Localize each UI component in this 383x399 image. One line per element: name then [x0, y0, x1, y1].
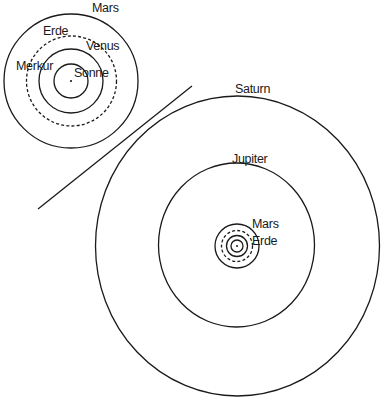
- label-mars-outer: Mars: [252, 217, 279, 231]
- label-venus-inner: Venus: [86, 39, 119, 53]
- label-erde-outer: Erde: [252, 234, 278, 248]
- label-mars-inner: Mars: [92, 1, 119, 15]
- outer-sun-dot: [236, 245, 238, 247]
- label-sonne: Sonne: [74, 66, 109, 80]
- jupiter-orbit: [159, 163, 315, 327]
- inner-system: Mars Erde Venus Merkur Sonne: [4, 1, 138, 148]
- label-merkur-inner: Merkur: [16, 59, 53, 73]
- label-saturn: Saturn: [235, 82, 270, 96]
- sun-dot: [70, 80, 72, 82]
- solar-system-diagram: Mars Erde Venus Merkur Sonne Saturn Jupi…: [0, 0, 383, 399]
- label-jupiter: Jupiter: [232, 152, 268, 166]
- label-erde-inner: Erde: [43, 24, 69, 38]
